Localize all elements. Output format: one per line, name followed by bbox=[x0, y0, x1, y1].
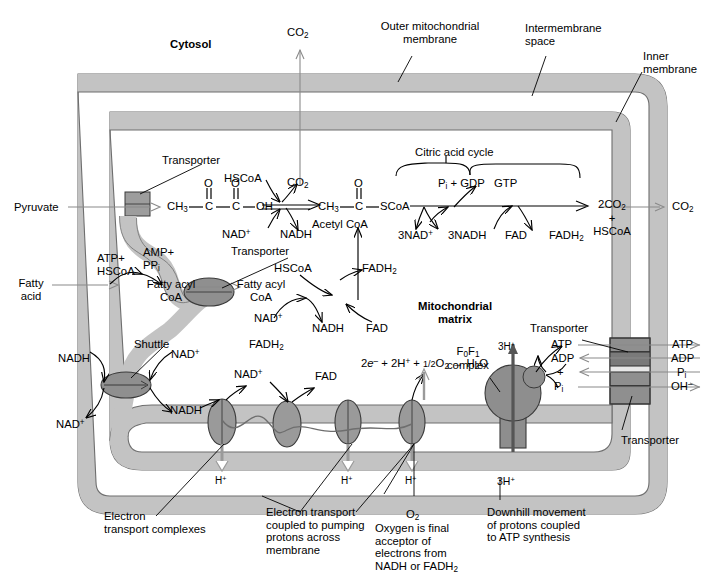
label-mitochondrial-matrix: Mitochondrialmatrix bbox=[400, 300, 510, 325]
label-citric-acid-cycle: Citric acid cycle bbox=[415, 146, 493, 159]
label-pi-matrix: Pi bbox=[554, 380, 563, 394]
label-nad-plus-pdh: NAD+ bbox=[222, 228, 251, 241]
label-f0f1-complex: F0F1complex bbox=[441, 345, 495, 372]
label-fatty-acyl-transporter: Transporter bbox=[231, 245, 289, 258]
label-shuttle: Shuttle bbox=[134, 338, 169, 351]
pyruvate-ch3: CH3 bbox=[167, 200, 188, 214]
label-plus-matrix: + bbox=[557, 366, 564, 379]
label-proton-1: H+ bbox=[215, 475, 226, 486]
label-adp-import: ADP bbox=[671, 352, 694, 365]
label-fad-betaox: FAD bbox=[366, 322, 388, 335]
label-co2-export-right: CO2 bbox=[672, 200, 693, 214]
label-transporter-ant-top: Transporter bbox=[530, 322, 588, 335]
label-nadh-matrix-shuttle: NADH bbox=[170, 404, 202, 417]
label-oh-export: OH– bbox=[671, 380, 692, 393]
label-fad-etc: FAD bbox=[315, 370, 337, 383]
acetylcoa-c: C bbox=[355, 200, 363, 213]
label-transporter-ant-bottom: Transporter bbox=[621, 434, 679, 447]
label-nad-plus-betaox: NAD+ bbox=[254, 312, 283, 325]
pyruvate-transporter[interactable] bbox=[125, 192, 150, 216]
label-nadh-cytosolic: NADH bbox=[58, 352, 90, 365]
label-nadh-pdh: NADH bbox=[280, 228, 312, 241]
caption-electron-transport-complexes: Electrontransport complexes bbox=[104, 510, 234, 535]
label-nadh-betaox: NADH bbox=[312, 322, 344, 335]
acetylcoa-scoa: SCoA bbox=[380, 200, 410, 213]
label-atp-hscoa: ATP+HSCoA bbox=[97, 252, 135, 277]
label-inner-membrane: Innermembrane bbox=[643, 50, 707, 75]
pyruvate-o2: O bbox=[231, 177, 240, 190]
caption-downhill-protons: Downhill movementof protons coupledto AT… bbox=[487, 506, 613, 544]
label-nad-plus-cytosolic: NAD+ bbox=[56, 418, 85, 431]
caption-o2-title: O2 bbox=[406, 508, 419, 522]
label-cytosol: Cytosol bbox=[170, 38, 211, 51]
o2-reaction-arrow bbox=[419, 369, 429, 400]
label-fadh2-betaox: FADH2 bbox=[362, 262, 397, 276]
label-hscoa-pdh: HSCoA bbox=[224, 172, 262, 185]
label-fatty-acyl-coa-matrix: Fatty acylCoA bbox=[228, 278, 294, 303]
label-amp-ppi: AMP+PPi bbox=[143, 246, 174, 273]
label-outer-membrane: Outer mitochondrialmembrane bbox=[365, 20, 495, 45]
label-fatty-acyl-coa-cytosolic: Fatty acylCoA bbox=[138, 278, 204, 303]
label-pyruvate: Pyruvate bbox=[14, 201, 59, 214]
caption-oxygen-acceptor: Oxygen is finalacceptor ofelectrons from… bbox=[375, 522, 485, 574]
label-gtp: GTP bbox=[494, 177, 517, 190]
label-3nad-plus: 3NAD+ bbox=[398, 229, 433, 242]
label-3h-plus-in: 3H+ bbox=[498, 341, 515, 352]
acetylcoa-o: O bbox=[354, 177, 363, 190]
label-3h-plus-out: 3H+ bbox=[497, 476, 515, 488]
pyruvate-oh: OH bbox=[256, 200, 273, 213]
label-cac-products: 2CO2+HSCoA bbox=[585, 198, 639, 237]
label-atp-matrix: ATP bbox=[551, 338, 572, 351]
label-proton-2: H+ bbox=[341, 475, 352, 486]
label-acetyl-coa: Acetyl CoA bbox=[312, 218, 368, 231]
label-pi-import: Pi bbox=[677, 366, 686, 380]
label-nad-plus-etc: NAD+ bbox=[234, 368, 263, 381]
label-proton-3: H+ bbox=[405, 475, 416, 486]
shuttle-transporter[interactable] bbox=[101, 372, 151, 398]
label-fadh2-etc: FADH2 bbox=[249, 338, 284, 352]
label-nad-plus-matrix-shuttle: NAD+ bbox=[171, 348, 200, 361]
caption-proton-pumping: Electron transportcoupled to pumpingprot… bbox=[266, 506, 382, 557]
pyruvate-c1: C bbox=[205, 200, 213, 213]
label-co2-pdh: CO2 bbox=[287, 176, 308, 190]
label-fatty-acid: Fattyacid bbox=[7, 277, 55, 302]
label-fad-cac: FAD bbox=[505, 229, 527, 242]
adenine-nucleotide-transporter[interactable] bbox=[610, 338, 650, 404]
label-co2-top-export: CO2 bbox=[287, 26, 308, 40]
pathway-vector-layer bbox=[0, 0, 713, 588]
label-pi-gdp: Pi + GDP bbox=[438, 177, 485, 191]
pyruvate-structure-bonds bbox=[189, 188, 255, 207]
label-3nadh: 3NADH bbox=[448, 229, 486, 242]
figure-canvas: Cytosol Outer mitochondrialmembrane Inte… bbox=[0, 0, 713, 588]
label-hscoa-betaox: HSCoA bbox=[274, 262, 312, 275]
pyruvate-c2: C bbox=[232, 200, 240, 213]
acetylcoa-ch3: CH3 bbox=[318, 200, 339, 214]
label-pyruvate-transporter: Transporter bbox=[162, 154, 220, 167]
label-intermembrane-space: Intermembranespace bbox=[525, 22, 625, 47]
pyruvate-o1: O bbox=[204, 177, 213, 190]
label-atp-export: ATP bbox=[672, 338, 693, 351]
label-fadh2-cac: FADH2 bbox=[549, 229, 584, 243]
label-adp-matrix: ADP bbox=[551, 352, 574, 365]
